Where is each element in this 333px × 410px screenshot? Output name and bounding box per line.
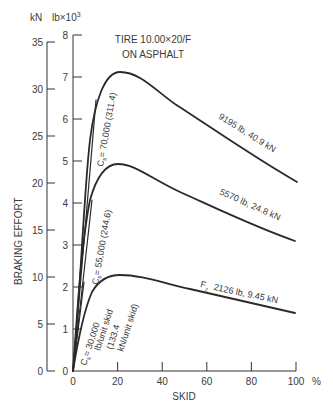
x-tick-labels: 0 20 40 60 80 100	[70, 376, 305, 387]
chart-title: TIRE 10.00×20/F	[115, 34, 191, 45]
chart-subtitle: ON ASPHALT	[122, 49, 184, 60]
svg-text:80: 80	[246, 376, 258, 387]
svg-text:60: 60	[201, 376, 213, 387]
x-axis	[73, 362, 296, 371]
svg-text:30: 30	[32, 84, 44, 95]
svg-text:20: 20	[32, 178, 44, 189]
cs1-label: Cs= 70,000 (311.4)	[95, 92, 119, 168]
svg-text:6: 6	[62, 114, 68, 125]
svg-text:100: 100	[288, 376, 305, 387]
braking-effort-chart: kN lb×103 0 5 10 15 20 25 30 35 0 1	[0, 0, 333, 410]
svg-text:1: 1	[62, 324, 68, 335]
svg-text:5: 5	[62, 156, 68, 167]
svg-text:5: 5	[37, 319, 43, 330]
curve1-label: 9195 lb, 40.9 kN	[217, 111, 278, 154]
kn-tick-labels: 0 5 10 15 20 25 30 35	[32, 37, 44, 377]
svg-text:0: 0	[62, 366, 68, 377]
svg-text:15: 15	[32, 225, 44, 236]
cs2-label: Cs= 55,000 (244.6)	[90, 209, 114, 286]
kn-axis	[47, 42, 55, 371]
svg-text:0: 0	[37, 366, 43, 377]
svg-text:4: 4	[62, 198, 68, 209]
svg-text:2: 2	[62, 282, 68, 293]
svg-text:10: 10	[32, 272, 44, 283]
svg-text:20: 20	[112, 376, 124, 387]
lb-tick-labels: 0 1 2 3 4 5 6 7 8	[62, 30, 68, 377]
svg-text:35: 35	[32, 37, 44, 48]
lb-unit-label: lb×103	[52, 11, 81, 23]
svg-text:8: 8	[62, 30, 68, 41]
y-axis-label: BRAKING EFFORT	[13, 197, 24, 285]
svg-text:0: 0	[70, 376, 76, 387]
x-unit-label: %	[312, 376, 321, 387]
svg-text:7: 7	[62, 72, 68, 83]
svg-text:25: 25	[32, 131, 44, 142]
curve2-label: 5570 lb, 24.8 kN	[218, 187, 282, 223]
x-axis-label: SKID	[172, 391, 195, 402]
svg-text:3: 3	[62, 240, 68, 251]
kn-unit-label: kN	[30, 12, 42, 23]
svg-text:40: 40	[157, 376, 169, 387]
